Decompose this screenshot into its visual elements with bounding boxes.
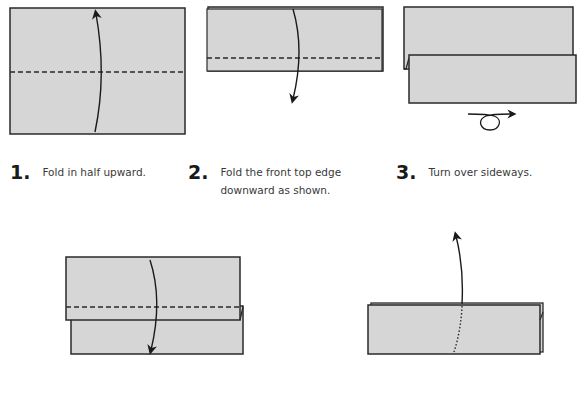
step-instruction: Fold the front top edge downward as show… (220, 162, 341, 199)
step-5-diagram (368, 236, 543, 354)
step-4-diagram (66, 257, 243, 354)
paper-front-layer (207, 9, 382, 71)
origami-diagram (0, 0, 577, 415)
paper-front-layer (368, 305, 540, 354)
step-1-diagram (10, 8, 185, 134)
step-instruction-line-1: Fold the front top edge (220, 166, 341, 178)
step-number: 2. (188, 162, 208, 182)
step-instruction: Turn over sideways. (428, 162, 532, 181)
step-number: 3. (396, 162, 416, 182)
step-2-diagram (207, 7, 383, 99)
fold-up-arrow-icon (456, 236, 462, 304)
step-2-caption: 2. Fold the front top edge downward as s… (188, 162, 341, 199)
step-instruction: Fold in half upward. (42, 162, 145, 181)
step-3-diagram (404, 7, 576, 130)
step-3-caption: 3. Turn over sideways. (396, 162, 532, 182)
turn-over-icon (468, 114, 512, 130)
step-instruction-line-2: downward as shown. (220, 184, 330, 196)
paper-front-layer (409, 55, 576, 103)
step-number: 1. (10, 162, 30, 182)
paper-front-layer (66, 257, 240, 320)
step-1-caption: 1. Fold in half upward. (10, 162, 146, 182)
